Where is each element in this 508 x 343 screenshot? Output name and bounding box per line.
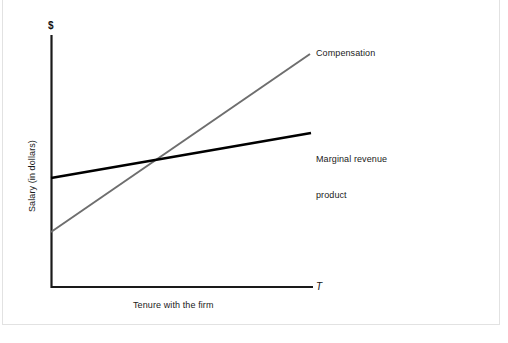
series-label-compensation: Compensation	[316, 47, 375, 59]
y-axis-title: Salary (in dollars)	[26, 140, 38, 212]
chart-graphics	[0, 0, 508, 343]
x-axis-title: Tenure with the firm	[133, 299, 214, 311]
x-axis-symbol-label: T	[316, 281, 322, 293]
y-axis-symbol-label: $	[48, 20, 54, 32]
series-label-mrp-line2: product	[316, 189, 387, 201]
series-line-marginal-revenue-product	[51, 133, 311, 178]
series-label-marginal-revenue-product: Marginal revenue product	[316, 129, 387, 225]
chart-plot-area: $ T Salary (in dollars) Tenure with the …	[0, 0, 508, 343]
chart-page: $ T Salary (in dollars) Tenure with the …	[0, 0, 508, 343]
series-label-mrp-line1: Marginal revenue	[316, 153, 387, 165]
series-line-compensation	[51, 54, 310, 232]
